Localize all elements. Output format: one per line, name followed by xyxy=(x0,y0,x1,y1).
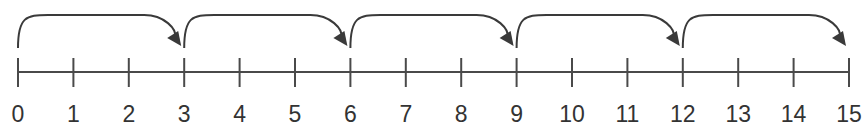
jump-arc xyxy=(517,15,674,48)
tick-labels: 0123456789101112131415 xyxy=(12,101,862,127)
tick-label: 0 xyxy=(12,101,25,127)
tick-label: 3 xyxy=(178,101,191,127)
number-line-svg: 0123456789101112131415 xyxy=(0,0,866,136)
tick-label: 11 xyxy=(615,101,639,127)
number-line-diagram: 0123456789101112131415 xyxy=(0,0,866,136)
jump-arrows xyxy=(18,15,846,48)
tick-label: 12 xyxy=(670,101,696,127)
jump-arc xyxy=(184,15,341,48)
tick-label: 2 xyxy=(122,101,135,127)
tick-label: 7 xyxy=(399,101,412,127)
tick-label: 14 xyxy=(781,101,807,127)
tick-label: 13 xyxy=(725,101,751,127)
tick-label: 4 xyxy=(233,101,246,127)
tick-label: 6 xyxy=(344,101,357,127)
tick-label: 15 xyxy=(836,101,862,127)
tick-label: 8 xyxy=(455,101,468,127)
jump-arc xyxy=(350,15,507,48)
tick-label: 10 xyxy=(559,101,585,127)
jump-arc xyxy=(18,15,175,48)
tick-label: 5 xyxy=(289,101,302,127)
tick-label: 1 xyxy=(67,101,80,127)
tick-label: 9 xyxy=(510,101,523,127)
jump-arc xyxy=(683,15,840,48)
